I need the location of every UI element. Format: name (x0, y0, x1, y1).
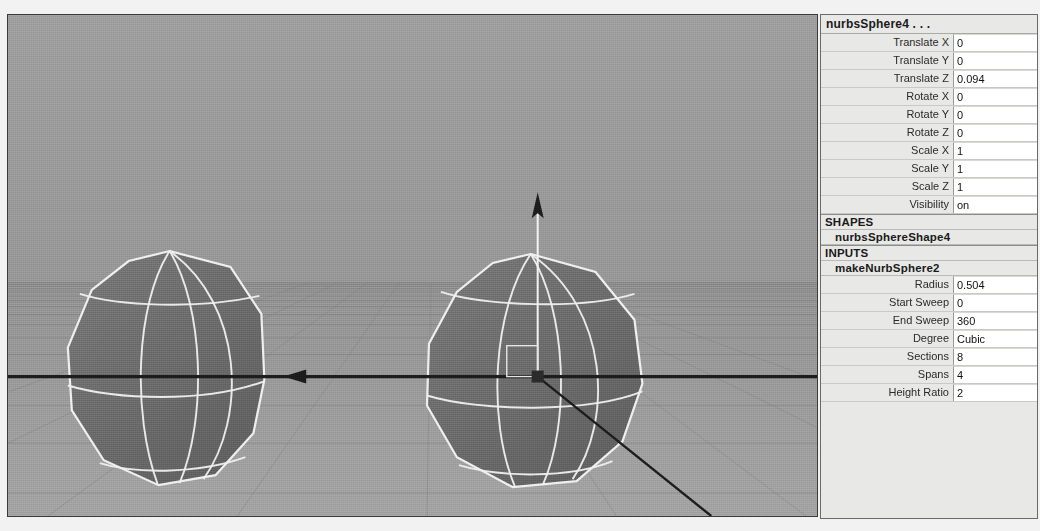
channel-row-radius[interactable]: Radius 0.504 (821, 276, 1037, 294)
channel-row-scale-y[interactable]: Scale Y 1 (821, 160, 1037, 178)
channel-box-panel[interactable]: nurbsSphere4 . . . Translate X 0 Transla… (820, 14, 1038, 519)
channel-row-rotate-x[interactable]: Rotate X 0 (821, 88, 1037, 106)
channel-row-spans[interactable]: Spans 4 (821, 366, 1037, 384)
channel-row-scale-z[interactable]: Scale Z 1 (821, 178, 1037, 196)
section-header-inputs: INPUTS (821, 245, 1037, 261)
channel-value-field[interactable]: 0 (953, 294, 1037, 311)
channel-label: Scale Z (821, 178, 953, 195)
channel-value-field[interactable]: 1 (953, 160, 1037, 177)
shape-node-name[interactable]: nurbsSphereShape4 (821, 230, 1037, 245)
channel-row-translate-z[interactable]: Translate Z 0.094 (821, 70, 1037, 88)
manipulator-pivot-square[interactable] (532, 371, 544, 383)
channel-label: Radius (821, 276, 953, 293)
channel-value-field[interactable]: 8 (953, 348, 1037, 365)
channel-value-field[interactable]: 2 (953, 384, 1037, 401)
channel-value-field[interactable]: 0.094 (953, 70, 1037, 87)
left-sphere[interactable] (68, 251, 265, 485)
channel-value-field[interactable]: 0 (953, 52, 1037, 69)
channel-row-degree[interactable]: Degree Cubic (821, 330, 1037, 348)
channel-row-sections[interactable]: Sections 8 (821, 348, 1037, 366)
channel-row-start-sweep[interactable]: Start Sweep 0 (821, 294, 1037, 312)
channel-value-field[interactable]: 0 (953, 106, 1037, 123)
channel-label: Translate Y (821, 52, 953, 69)
channel-row-rotate-z[interactable]: Rotate Z 0 (821, 124, 1037, 142)
channel-value-field[interactable]: 360 (953, 312, 1037, 329)
channel-row-rotate-y[interactable]: Rotate Y 0 (821, 106, 1037, 124)
channel-row-end-sweep[interactable]: End Sweep 360 (821, 312, 1037, 330)
channel-label: Visibility (821, 196, 953, 213)
perspective-viewport[interactable] (7, 14, 818, 517)
left-sphere-body (68, 251, 265, 485)
viewport-3d-scene[interactable] (8, 15, 817, 516)
channel-value-field[interactable]: 0 (953, 34, 1037, 51)
channel-label: Spans (821, 366, 953, 383)
viewport-sky (8, 15, 817, 282)
channel-label: Sections (821, 348, 953, 365)
application-window: nurbsSphere4 . . . Translate X 0 Transla… (0, 0, 1040, 531)
channel-value-field[interactable]: on (953, 196, 1037, 213)
channel-label: Translate X (821, 34, 953, 51)
channel-label: Scale X (821, 142, 953, 159)
input-node-name[interactable]: makeNurbSphere2 (821, 261, 1037, 276)
channel-value-field[interactable]: Cubic (953, 330, 1037, 347)
channel-label: Height Ratio (821, 384, 953, 401)
channel-value-field[interactable]: 0.504 (953, 276, 1037, 293)
channel-label: Translate Z (821, 70, 953, 87)
channel-value-field[interactable]: 1 (953, 178, 1037, 195)
channel-label: Scale Y (821, 160, 953, 177)
channel-value-field[interactable]: 4 (953, 366, 1037, 383)
channel-label: End Sweep (821, 312, 953, 329)
channel-value-field[interactable]: 0 (953, 124, 1037, 141)
channel-value-field[interactable]: 0 (953, 88, 1037, 105)
channel-row-scale-x[interactable]: Scale X 1 (821, 142, 1037, 160)
channel-row-translate-x[interactable]: Translate X 0 (821, 34, 1037, 52)
channel-row-visibility[interactable]: Visibility on (821, 196, 1037, 214)
channel-label: Rotate X (821, 88, 953, 105)
channel-box-empty-area (821, 402, 1037, 518)
channel-label: Rotate Z (821, 124, 953, 141)
channel-row-height-ratio[interactable]: Height Ratio 2 (821, 384, 1037, 402)
section-header-shapes: SHAPES (821, 214, 1037, 230)
channel-row-translate-y[interactable]: Translate Y 0 (821, 52, 1037, 70)
channel-label: Degree (821, 330, 953, 347)
channel-label: Rotate Y (821, 106, 953, 123)
channel-value-field[interactable]: 1 (953, 142, 1037, 159)
channel-box-title: nurbsSphere4 . . . (821, 15, 1037, 34)
channel-label: Start Sweep (821, 294, 953, 311)
